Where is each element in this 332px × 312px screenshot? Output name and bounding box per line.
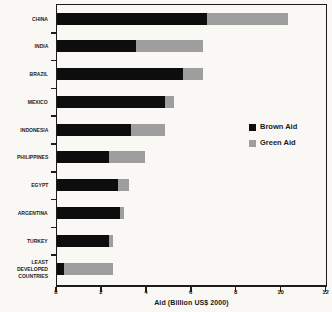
category-boundary-tick — [51, 254, 56, 256]
x-axis-tick-label-2: 2 — [93, 289, 109, 295]
category-label-text: CHINA — [32, 16, 48, 23]
x-axis-tick-label-10: 10 — [273, 289, 289, 295]
bar-segment-green-aid-india — [136, 40, 203, 52]
legend-label-green-aid: Green Aid — [260, 139, 296, 147]
legend-swatch-green-aid — [249, 140, 256, 147]
category-boundary-tick — [51, 115, 56, 117]
category-label-text: INDIA — [34, 43, 48, 50]
category-label-text: TURKEY — [27, 238, 48, 245]
legend-item-green-aid: Green Aid — [249, 139, 297, 147]
bar-segment-green-aid-indonesia — [131, 124, 165, 136]
legend: Brown AidGreen Aid — [249, 123, 297, 155]
category-label-china: CHINA — [0, 9, 52, 29]
category-boundary-tick — [51, 199, 56, 201]
bar-segment-brown-aid-china — [57, 13, 207, 25]
category-boundary-tick — [51, 227, 56, 229]
bar-segment-brown-aid-argentina — [57, 207, 120, 219]
bar-segment-green-aid-least-developed-countries — [64, 263, 113, 275]
bar-segment-green-aid-egypt — [118, 179, 129, 191]
category-boundary-tick — [51, 88, 56, 90]
category-label-philippines: PHILIPPINES — [0, 148, 52, 168]
x-axis-tick-label-4: 4 — [138, 289, 154, 295]
category-boundary-tick — [51, 32, 56, 34]
category-label-text: ARGENTINA — [18, 210, 48, 217]
bar-segment-brown-aid-indonesia — [57, 124, 131, 136]
legend-swatch-brown-aid — [249, 124, 256, 131]
x-axis-title: Aid (Billion US$ 2000) — [56, 299, 327, 306]
category-label-turkey: TURKEY — [0, 231, 52, 251]
category-label-argentina: ARGENTINA — [0, 203, 52, 223]
bar-segment-brown-aid-brazil — [57, 68, 183, 80]
category-label-mexico: MEXICO — [0, 92, 52, 112]
bar-segment-brown-aid-turkey — [57, 235, 109, 247]
category-label-least-developed-countries: LEAST DEVELOPED COUNTRIES — [0, 259, 52, 279]
category-label-text: LEAST DEVELOPED COUNTRIES — [8, 259, 48, 280]
bar-segment-green-aid-brazil — [183, 68, 203, 80]
category-label-text: PHILIPPINES — [17, 154, 48, 161]
bar-segment-brown-aid-egypt — [57, 179, 118, 191]
x-axis-tick-label-0: 0 — [48, 289, 64, 295]
legend-item-brown-aid: Brown Aid — [249, 123, 297, 131]
category-label-text: BRAZIL — [30, 71, 48, 78]
category-boundary-tick — [51, 143, 56, 145]
bar-segment-green-aid-turkey — [109, 235, 113, 247]
bar-segment-green-aid-argentina — [120, 207, 124, 219]
x-axis-tick-label-8: 8 — [228, 289, 244, 295]
bar-segment-brown-aid-india — [57, 40, 136, 52]
bar-segment-green-aid-mexico — [165, 96, 174, 108]
category-label-text: MEXICO — [28, 99, 48, 106]
x-axis-tick-label-6: 6 — [183, 289, 199, 295]
category-label-text: EGYPT — [31, 182, 48, 189]
stacked-bar-chart-figure: CHINAINDIABRAZILMEXICOINDONESIAPHILIPPIN… — [0, 0, 332, 312]
category-label-brazil: BRAZIL — [0, 65, 52, 85]
bar-segment-brown-aid-philippines — [57, 151, 109, 163]
bar-segment-brown-aid-least-developed-countries — [57, 263, 64, 275]
category-label-egypt: EGYPT — [0, 176, 52, 196]
bar-segment-green-aid-china — [207, 13, 288, 25]
legend-label-brown-aid: Brown Aid — [260, 123, 297, 131]
category-boundary-tick — [51, 60, 56, 62]
category-boundary-tick — [51, 171, 56, 173]
category-label-indonesia: INDONESIA — [0, 120, 52, 140]
bar-segment-brown-aid-mexico — [57, 96, 165, 108]
category-label-text: INDONESIA — [20, 127, 48, 134]
category-label-india: INDIA — [0, 37, 52, 57]
x-axis-tick-label-12: 12 — [318, 289, 332, 295]
bar-segment-green-aid-philippines — [109, 151, 145, 163]
